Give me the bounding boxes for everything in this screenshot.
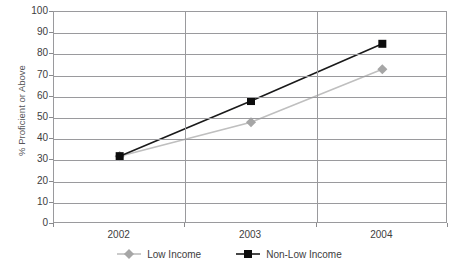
data-point-marker (244, 250, 252, 258)
plot-area (53, 11, 447, 223)
x-axis-tick (53, 223, 54, 227)
y-tick-label: 70 (22, 70, 48, 80)
x-axis-tick (447, 223, 448, 227)
gridline (54, 33, 446, 34)
category-divider (185, 12, 186, 222)
gridline (54, 97, 446, 98)
chart-legend: Low IncomeNon-Low Income (0, 248, 458, 260)
y-tick-label: 100 (22, 6, 48, 16)
legend-item-non-low-income[interactable]: Non-Low Income (235, 248, 342, 260)
x-tick-label: 2004 (341, 229, 421, 240)
square-marker-icon (235, 248, 261, 260)
y-tick-label: 60 (22, 91, 48, 101)
gridline (54, 160, 446, 161)
data-point-marker (378, 40, 386, 48)
gridline (54, 76, 446, 77)
y-axis-tick (49, 32, 53, 33)
y-axis-tick (49, 159, 53, 160)
line-chart: % Proficient or Above 100908070605040302… (0, 0, 458, 267)
legend-label: Non-Low Income (266, 249, 342, 260)
y-tick-label: 20 (22, 176, 48, 186)
y-tick-label: 50 (22, 112, 48, 122)
gridline (54, 54, 446, 55)
y-tick-label: 90 (22, 27, 48, 37)
series-non-low-income (116, 40, 387, 160)
x-tick-label: 2002 (79, 229, 159, 240)
gridline (54, 203, 446, 204)
chart-title-cropped (0, 0, 458, 5)
data-point-marker (116, 152, 124, 160)
y-tick-label: 40 (22, 133, 48, 143)
gridline (54, 118, 446, 119)
legend-label: Low Income (147, 249, 201, 260)
gridline (54, 182, 446, 183)
y-axis-tick (49, 117, 53, 118)
y-axis-tick (49, 53, 53, 54)
gridline (54, 139, 446, 140)
category-divider (317, 12, 318, 222)
y-axis-tick (49, 11, 53, 12)
legend-item-low-income[interactable]: Low Income (116, 248, 201, 260)
data-point-marker (124, 249, 134, 259)
y-axis-labels: 1009080706050403020100 (22, 11, 48, 223)
data-point-marker (247, 97, 255, 105)
y-axis-tick (49, 202, 53, 203)
x-axis-tick (316, 223, 317, 227)
y-tick-label: 10 (22, 197, 48, 207)
y-axis-tick (49, 138, 53, 139)
y-tick-label: 0 (22, 218, 48, 228)
y-axis-tick (49, 96, 53, 97)
y-axis-tick (49, 181, 53, 182)
x-tick-label: 2003 (210, 229, 290, 240)
data-point-marker (377, 64, 387, 74)
y-tick-label: 80 (22, 48, 48, 58)
y-axis-tick (49, 75, 53, 76)
y-tick-label: 30 (22, 154, 48, 164)
series-low-income (115, 64, 388, 161)
x-axis-tick (184, 223, 185, 227)
series-line (120, 69, 383, 156)
diamond-marker-icon (116, 248, 142, 260)
